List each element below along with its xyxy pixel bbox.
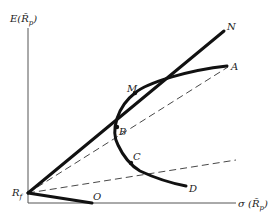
efficient-frontier-diagram: E(R̃p) σ (R̃p) Rf N A M B C D O [0,0,273,217]
label-c: C [133,151,141,162]
label-rf: Rf [11,187,24,201]
x-axis-label: σ (R̃p) [238,198,268,212]
label-b: B [118,126,126,137]
line-rf-o [28,193,92,203]
label-m: M [126,83,138,94]
y-axis-label: E(R̃p) [9,13,37,27]
label-o: O [93,191,101,202]
label-n: N [226,21,237,32]
label-d: D [188,183,197,194]
label-a: A [230,61,238,72]
capital-market-line-rf-n [28,31,224,193]
